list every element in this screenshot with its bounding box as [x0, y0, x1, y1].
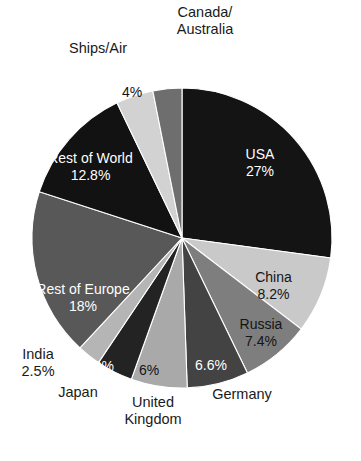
slice-value-rest-of-world-name: Rest of World — [28, 150, 153, 167]
slice-label-ships-air: Ships/Air — [48, 40, 148, 57]
slice-value-ships-air: 4% — [107, 84, 157, 101]
slice-label-united-kingdom-line1: United — [103, 394, 203, 411]
slice-value-china: China 8.2% — [231, 269, 316, 302]
slice-value-rest-of-world: Rest of World 12.8% — [28, 150, 153, 183]
slice-value-united-kingdom: 6% — [124, 362, 174, 379]
pie-chart: Canada/ Australia Ships/Air Germany Unit… — [0, 0, 361, 461]
slice-label-canada-australia-line2: Australia — [155, 21, 255, 38]
slice-value-russia: Russia 7.4% — [221, 316, 301, 349]
slice-label-united-kingdom: United Kingdom — [103, 394, 203, 428]
slice-value-rest-of-world-value: 12.8% — [28, 167, 153, 184]
slice-value-usa-value: 27% — [215, 163, 305, 180]
slice-value-japan: 3.9% — [68, 358, 128, 375]
slice-value-china-value: 8.2% — [231, 286, 316, 303]
slice-label-india-name: India — [0, 346, 78, 363]
slice-label-india-value: 2.5% — [0, 363, 78, 380]
slice-value-germany: 6.6% — [181, 357, 241, 374]
slice-value-canada-australia: 3.1% — [148, 68, 208, 85]
slice-value-china-name: China — [231, 269, 316, 286]
slice-value-rest-of-europe-name: Rest of Europe — [18, 281, 148, 298]
slice-label-canada-australia: Canada/ Australia — [155, 4, 255, 38]
slice-value-russia-name: Russia — [221, 316, 301, 333]
slice-label-india: India 2.5% — [0, 346, 78, 380]
slice-value-usa-name: USA — [215, 146, 305, 163]
slice-value-russia-value: 7.4% — [221, 333, 301, 350]
slice-value-rest-of-europe: Rest of Europe 18% — [18, 281, 148, 314]
slice-value-usa: USA 27% — [215, 146, 305, 179]
slice-label-germany: Germany — [192, 386, 292, 403]
slice-label-united-kingdom-line2: Kingdom — [103, 411, 203, 428]
slice-label-canada-australia-line1: Canada/ — [155, 4, 255, 21]
slice-label-japan: Japan — [38, 384, 118, 401]
slice-value-rest-of-europe-value: 18% — [18, 298, 148, 315]
